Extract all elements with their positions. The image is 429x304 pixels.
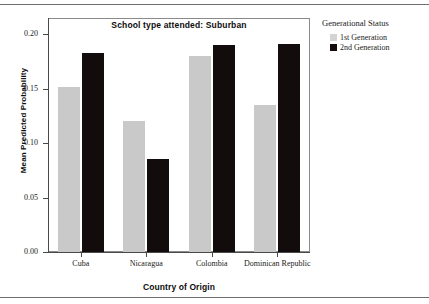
y-axis-tick	[43, 198, 48, 199]
legend-rows: 1st Generation2nd Generation	[322, 33, 426, 52]
x-axis-line	[48, 252, 310, 253]
x-axis-tick-label: Cuba	[45, 259, 117, 269]
bar-1st-generation-nicaragua	[123, 121, 145, 252]
x-axis-tick	[146, 252, 147, 257]
legend-item-2nd-generation: 2nd Generation	[330, 43, 426, 52]
x-axis-tick-label: Dominican Republic	[241, 259, 313, 269]
legend-swatch-1st-generation-icon	[330, 34, 337, 41]
x-axis-tick	[81, 252, 82, 257]
y-axis-tick	[43, 89, 48, 90]
legend-item-1st-generation: 1st Generation	[330, 33, 426, 42]
x-axis-tick-label: Colombia	[176, 259, 248, 269]
bar-1st-generation-dominican-republic	[254, 105, 276, 252]
legend-swatch-2nd-generation-icon	[330, 44, 337, 51]
y-axis-tick-label: 0.10	[8, 138, 38, 147]
bar-2nd-generation-colombia	[213, 45, 235, 252]
y-axis-tick-label: 0.15	[8, 84, 38, 93]
bar-2nd-generation-nicaragua	[147, 159, 169, 252]
y-axis-tick	[43, 143, 48, 144]
y-axis-tick	[43, 252, 48, 253]
bar-chart-figure: School type attended: Suburban Mean Pred…	[0, 6, 429, 296]
legend-item-label: 1st Generation	[340, 33, 387, 42]
page-rule-top	[0, 4, 429, 5]
y-axis-tick-label: 0.05	[8, 193, 38, 202]
bar-2nd-generation-cuba	[82, 53, 104, 252]
bar-1st-generation-colombia	[189, 56, 211, 252]
y-axis-title: Mean Predicted Probability	[19, 46, 28, 196]
y-axis-tick-label: 0.20	[8, 29, 38, 38]
page-rule-bottom	[0, 297, 429, 298]
chart-legend: Generational Status 1st Generation2nd Ge…	[322, 18, 426, 53]
x-axis-tick	[277, 252, 278, 257]
y-axis-tick-label: 0.00	[8, 247, 38, 256]
legend-item-label: 2nd Generation	[340, 43, 390, 52]
bar-2nd-generation-dominican-republic	[278, 44, 300, 252]
y-axis-tick	[43, 34, 48, 35]
bars-layer	[49, 19, 309, 252]
bar-1st-generation-cuba	[58, 87, 80, 252]
x-axis-tick	[212, 252, 213, 257]
x-axis-tick-label: Nicaragua	[110, 259, 182, 269]
legend-title: Generational Status	[322, 18, 426, 28]
x-axis-title: Country of Origin	[48, 282, 310, 292]
